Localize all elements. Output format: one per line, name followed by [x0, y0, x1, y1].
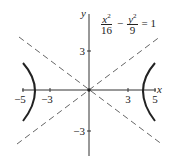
asymptote-negative: [19, 37, 163, 145]
hyperbola-left-branch: [23, 63, 35, 121]
equation-label: x2 16 − y2 9 = 1: [99, 11, 159, 35]
x-tick-label: −3: [41, 93, 53, 105]
minus-operator: −: [117, 17, 123, 29]
fraction-y: y2 9: [127, 11, 137, 35]
y-tick-label: −3: [73, 125, 85, 137]
y-axis-label: y: [80, 7, 86, 19]
y-tick-label: 3: [80, 45, 86, 57]
hyperbola-right-branch: [143, 63, 155, 121]
equals-one: = 1: [142, 17, 156, 29]
x-tick-label: 3: [125, 93, 131, 105]
fraction-x: x2 16: [100, 11, 113, 35]
x-tick-label: −5: [14, 93, 26, 105]
x-tick-label: 5: [152, 93, 158, 105]
origin-point: [87, 88, 91, 92]
